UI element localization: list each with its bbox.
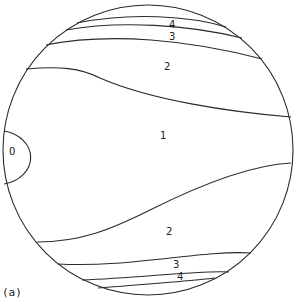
contour-3-4-top xyxy=(66,25,242,38)
region-0-label: 0 xyxy=(9,146,15,157)
region-2-bottom-label: 2 xyxy=(166,226,172,237)
region-3-bottom-label: 3 xyxy=(173,259,179,270)
contour-2-3-bottom xyxy=(58,253,251,265)
contour-1-2-bottom xyxy=(37,163,291,242)
contour-diagram: 0 1 2 3 4 2 3 4 (a) xyxy=(0,0,294,300)
region-0-boundary xyxy=(4,131,31,184)
region-3-top-label: 3 xyxy=(169,31,175,42)
contour-2-3-top xyxy=(46,39,262,59)
region-4-top-label: 4 xyxy=(169,19,175,30)
region-2-top-label: 2 xyxy=(164,61,170,72)
region-1-label: 1 xyxy=(160,130,166,141)
region-4-bottom-label: 4 xyxy=(177,271,183,282)
contour-1-2-top xyxy=(26,68,291,117)
outer-circle-boundary xyxy=(3,5,293,295)
figure-caption: (a) xyxy=(2,286,22,299)
